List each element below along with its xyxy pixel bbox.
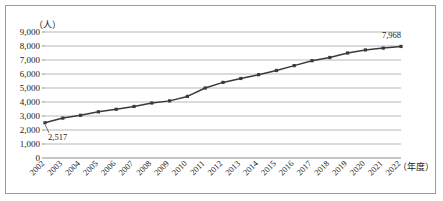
data-point-marker: [168, 99, 171, 102]
x-axis-tick-label: 2015: [259, 158, 278, 177]
data-point-marker: [97, 110, 100, 113]
data-point-marker: [150, 101, 153, 104]
x-axis-tick-label: 2019: [330, 158, 349, 177]
x-axis-tick-label: 2005: [81, 158, 100, 177]
data-point-marker: [328, 56, 331, 59]
x-axis-tick-label: 2021: [366, 158, 385, 177]
x-axis-tick-label: 2012: [205, 158, 224, 177]
x-axis-tick-label: 2020: [348, 158, 367, 177]
y-axis-tick-label: 6,000: [20, 69, 41, 79]
data-point-marker: [275, 69, 278, 72]
x-axis-unit-label: （年度）: [398, 161, 434, 172]
y-axis-tick-label: 8,000: [20, 41, 41, 51]
x-axis-tick-label: 2017: [294, 158, 313, 177]
y-axis-tick-label: 2,000: [20, 125, 41, 135]
data-point-marker: [221, 81, 224, 84]
data-point-marker: [310, 59, 313, 62]
data-point-marker: [79, 114, 82, 117]
data-point-marker: [115, 108, 118, 111]
data-point-marker: [346, 51, 349, 54]
x-axis-tick-label: 2004: [63, 158, 83, 178]
y-axis-tick-label: 7,000: [20, 55, 41, 65]
line-chart: 01,0002,0003,0004,0005,0006,0007,0008,00…: [6, 6, 435, 193]
y-axis-tick-label: 5,000: [20, 83, 41, 93]
data-point-value-label: 2,517: [48, 132, 67, 142]
x-axis-tick-label: 2002: [27, 158, 46, 177]
y-axis-tick-label: 3,000: [20, 111, 41, 121]
data-point-marker: [132, 105, 135, 108]
data-point-marker: [364, 48, 367, 51]
series-marker-group: [43, 45, 402, 125]
data-point-marker: [204, 86, 207, 89]
data-point-marker: [61, 117, 64, 120]
data-point-value-label: 7,968: [382, 30, 401, 40]
data-point-marker: [257, 73, 260, 76]
data-point-marker: [293, 64, 296, 67]
x-axis-tick-label: 2007: [116, 158, 135, 177]
x-axis-tick-label: 2010: [170, 158, 189, 177]
data-point-marker: [382, 47, 385, 50]
gridline-group: [42, 32, 401, 158]
x-axis-tick-label: 2016: [277, 158, 296, 177]
x-axis-tick-label: 2006: [99, 158, 118, 177]
data-point-marker: [239, 77, 242, 80]
data-label-group: 2,5177,968: [45, 30, 401, 141]
x-axis-tick-label: 2013: [223, 158, 242, 177]
data-point-marker: [399, 45, 402, 48]
y-axis-tick-label: 4,000: [20, 97, 41, 107]
x-axis-tick-label: 2003: [45, 158, 64, 177]
chart-figure-frame: 01,0002,0003,0004,0005,0006,0007,0008,00…: [5, 5, 436, 194]
y-axis-unit-label: （人）: [34, 20, 61, 30]
y-axis-tick-labels: 01,0002,0003,0004,0005,0006,0007,0008,00…: [20, 27, 41, 163]
data-series-group: [43, 45, 402, 125]
data-point-marker: [43, 121, 46, 124]
x-axis-tick-label: 2011: [188, 158, 207, 177]
y-axis-tick-label: 1,000: [20, 139, 41, 149]
x-axis-tick-label: 2008: [134, 158, 153, 177]
x-axis-tick-label: 2009: [152, 158, 171, 177]
x-axis-tick-labels: 2002200320042005200620072008200920102011…: [27, 158, 402, 178]
x-axis-tick-label: 2018: [312, 158, 331, 177]
data-point-marker: [186, 95, 189, 98]
x-axis-tick-label: 2014: [241, 158, 261, 178]
